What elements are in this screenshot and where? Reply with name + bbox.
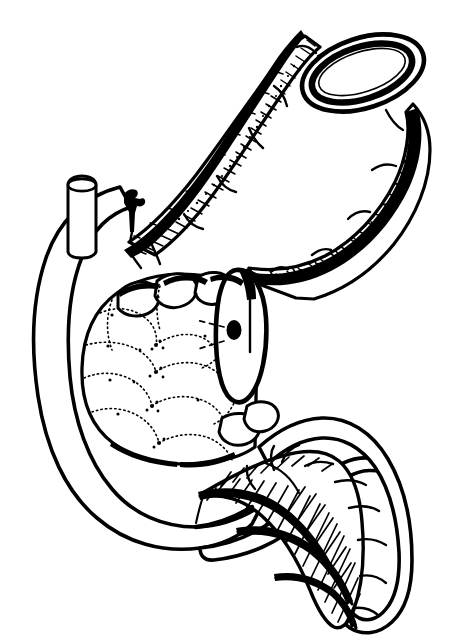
- figure-root: Surgical anatomy line drawing Pancreatic…: [0, 0, 452, 642]
- duct-stump-lumen: [68, 179, 96, 191]
- anatomy-illustration: [0, 0, 452, 642]
- duct-stump: [68, 176, 96, 258]
- pancreatic-duct: [227, 320, 242, 340]
